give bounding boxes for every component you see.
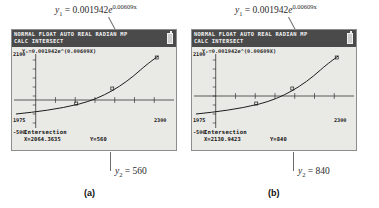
panel-b-bottom-eq-rhs: = 840 [305,166,329,176]
panel-b-status-line-1: NORMAL FLOAT AUTO REAL RADIAN MP [194,31,354,38]
panel-a-status-line-2: CALC INTERSECT [14,38,174,45]
panel-b-bottom-equation: y2 = 840 [298,166,330,178]
panel-b-footer: Intersection X=2130.9423 Y=840 [192,127,356,149]
panel-a-caption: (a) [84,188,95,198]
panel-b-leader-bottom [293,152,294,171]
panel-b-footer-title: Intersection [204,129,247,135]
panel-b-plot [192,54,356,128]
panel-a-footer-y: Y=560 [90,136,107,142]
panel-b-top-equation: y1 = 0.001942e0.00609x [235,3,317,17]
panel-a-top-equation: y1 = 0.001942e0.00609x [55,3,137,17]
panel-a-footer-title: Intersection [24,129,67,135]
panel-a-status-line-1: NORMAL FLOAT AUTO REAL RADIAN MP [14,31,174,38]
panel-b-footer-x: X=2130.9423 [204,136,241,142]
panel-a-plot [12,54,176,128]
panel-a-curve-y1 [16,56,158,114]
panel-a-calculator-screen: NORMAL FLOAT AUTO REAL RADIAN MP CALC IN… [11,29,177,151]
panel-b-top-eq-exponent: 0.00609x [292,3,316,10]
panel-b-footer-y: Y=840 [270,136,287,142]
panel-b-top-eq-rel: = 0.001942 [242,5,288,15]
panel-a-top-eq-exponent: 0.00609x [112,3,136,10]
panel-b-calculator-screen: NORMAL FLOAT AUTO REAL RADIAN MP CALC IN… [191,29,357,151]
battery-icon [167,33,173,44]
panel-a-bottom-equation: y2 = 560 [115,166,147,178]
panel-b-status-bar: NORMAL FLOAT AUTO REAL RADIAN MP CALC IN… [192,30,356,47]
panel-a-status-bar: NORMAL FLOAT AUTO REAL RADIAN MP CALC IN… [12,30,176,47]
panel-a-top-eq-rel: = 0.001942 [62,5,108,15]
panel-a-bottom-eq-rhs: = 560 [122,166,146,176]
panel-a-leader-bottom [110,152,111,171]
panel-b-status-line-2: CALC INTERSECT [194,38,354,45]
panel-b-curve-y1 [196,56,338,114]
panel-a-footer-x: X=2064.3635 [24,136,61,142]
battery-icon [347,33,353,44]
panel-a-footer: Intersection X=2064.3635 Y=560 [12,127,176,149]
panel-b-caption: (b) [268,188,280,198]
